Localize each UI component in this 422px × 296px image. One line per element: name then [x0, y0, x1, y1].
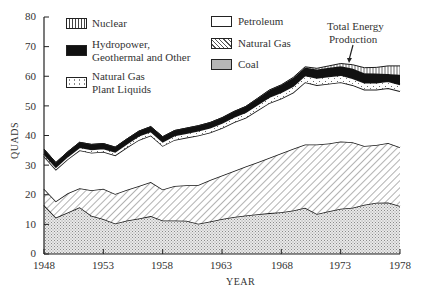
y-tick: 20	[16, 188, 36, 200]
legend-swatch-petroleum	[211, 16, 232, 27]
y-tick: 80	[16, 10, 36, 22]
x-tick: 1958	[151, 259, 173, 271]
y-tick: 10	[16, 218, 36, 230]
legend-swatch-ngpl	[66, 77, 87, 88]
annotation-line2: Production	[329, 33, 377, 46]
total-energy-annotation-arrow	[347, 45, 353, 63]
legend-label-ngpl-line2: Plant Liquids	[92, 83, 151, 96]
x-tick: 1968	[271, 259, 293, 271]
legend-swatch-natural-gas	[211, 38, 232, 49]
x-tick: 1973	[329, 259, 351, 271]
x-axis-title: YEAR	[226, 276, 255, 287]
legend-swatch-coal	[211, 59, 232, 70]
y-tick: 0	[16, 247, 36, 259]
legend-label-hydropower-line2: Geothermal and Other	[92, 51, 190, 64]
legend-label-ngpl-line1: Natural Gas	[92, 70, 145, 83]
x-tick: 1948	[33, 259, 55, 271]
legend-label-petroleum: Petroleum	[238, 15, 283, 28]
x-tick: 1953	[92, 259, 114, 271]
y-tick: 70	[16, 40, 36, 52]
x-tick: 1978	[389, 259, 411, 271]
y-tick: 60	[16, 70, 36, 82]
annotation-line1: Total Energy	[327, 20, 384, 33]
legend-label-hydropower-line1: Hydropower,	[92, 38, 150, 51]
y-tick: 30	[16, 159, 36, 171]
legend-label-coal: Coal	[238, 58, 259, 71]
y-axis-title: QUADS	[9, 121, 20, 161]
legend-swatch-nuclear	[66, 18, 87, 29]
legend-label-nuclear: Nuclear	[92, 17, 127, 30]
x-tick: 1963	[210, 259, 232, 271]
y-tick: 50	[16, 100, 36, 112]
legend-label-natural-gas: Natural Gas	[238, 37, 291, 50]
legend-swatch-hydropower	[66, 45, 87, 56]
